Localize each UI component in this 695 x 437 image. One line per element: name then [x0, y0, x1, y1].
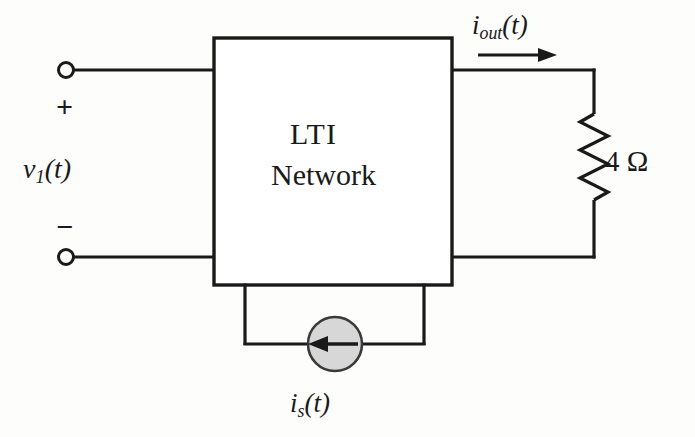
circuit-diagram-canvas: LTI Network + − v1(t) iout(t) 4 Ω is(t)	[0, 0, 695, 437]
source-current-argument: (t)	[304, 388, 329, 418]
circuit-schematic-svg	[0, 0, 695, 437]
input-terminal-positive	[59, 63, 74, 78]
input-polarity-plus: +	[56, 92, 73, 122]
source-current-label: is(t)	[290, 390, 330, 421]
output-current-argument: (t)	[502, 10, 527, 40]
output-current-label: iout(t)	[472, 12, 528, 43]
input-polarity-minus: −	[56, 212, 73, 242]
input-voltage-subscript: 1	[35, 167, 44, 187]
input-terminal-negative	[59, 250, 74, 265]
resistor-value-label: 4 Ω	[605, 147, 648, 176]
output-current-subscript: out	[480, 23, 503, 43]
input-voltage-label: v1(t)	[23, 155, 71, 187]
resistor-zigzag	[580, 114, 608, 200]
source-current-symbol: i	[290, 388, 298, 418]
output-current-symbol: i	[472, 10, 480, 40]
lti-block-label-line1: LTI	[290, 119, 337, 149]
input-voltage-symbol: v	[23, 153, 35, 184]
lti-block-label-line2: Network	[271, 160, 376, 190]
input-voltage-argument: (t)	[45, 153, 71, 184]
output-current-arrow-head	[538, 48, 557, 62]
